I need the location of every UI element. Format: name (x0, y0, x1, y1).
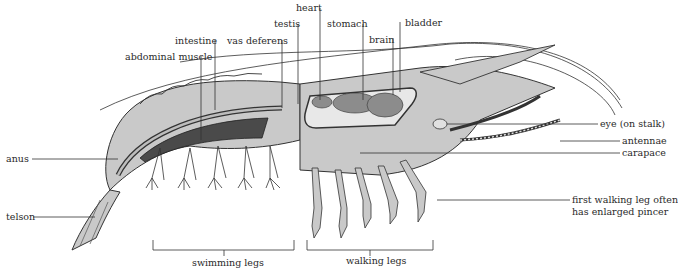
eye-shape (433, 119, 447, 129)
label-bladder: bladder (405, 17, 442, 28)
label-walking-legs: walking legs (346, 255, 406, 266)
label-carapace: carapace (622, 147, 666, 158)
label-intestine: intestine (175, 35, 217, 46)
bottom-brackets (153, 240, 433, 256)
label-anus: anus (6, 153, 29, 164)
label-swimming-legs: swimming legs (192, 257, 264, 268)
label-abdominal-muscle: abdominal muscle (125, 51, 212, 62)
label-vas-deferens: vas deferens (227, 35, 288, 46)
label-telson: telson (6, 211, 35, 222)
label-testis: testis (274, 18, 300, 29)
label-stomach: stomach (327, 18, 368, 29)
label-antennae: antennae (622, 135, 667, 146)
telson-shape (72, 190, 120, 250)
heart-shape (312, 96, 332, 108)
label-eye: eye (on stalk) (600, 118, 665, 129)
label-first-walking-leg-line1: first walking leg often (572, 194, 678, 205)
label-first-walking-leg-line2: has enlarged pincer (572, 206, 668, 217)
label-brain: brain (369, 34, 394, 45)
label-heart: heart (296, 2, 322, 13)
